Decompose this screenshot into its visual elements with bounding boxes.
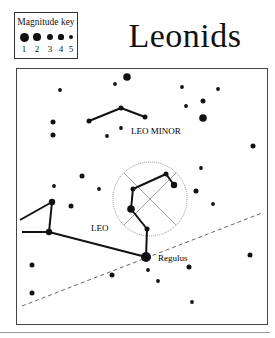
star [51,133,56,138]
star [216,87,220,91]
star [49,199,55,205]
star [211,202,215,206]
star [199,114,207,122]
label-regulus: Regulus [158,253,188,263]
star [171,182,177,188]
star [201,99,206,104]
star [146,268,150,272]
star [194,189,199,194]
star [69,204,74,209]
star [248,253,253,258]
star [131,187,136,192]
star [87,119,92,124]
star [113,82,117,86]
stars [30,73,256,304]
star [127,205,135,213]
star [30,291,35,296]
star [46,229,52,235]
star [187,265,192,270]
star [58,88,62,92]
star [184,104,188,108]
star [119,126,123,130]
star [110,273,115,278]
radiant-circle [113,162,187,236]
star [97,187,101,191]
label-leo: LEO [91,223,109,233]
map-frame [17,69,268,325]
star [190,300,194,304]
star [119,106,124,111]
star [180,85,184,89]
star [52,184,56,188]
star-map: LEO MINOR LEO Regulus [0,0,275,338]
label-leo-minor: LEO MINOR [131,126,181,136]
star [251,144,256,149]
bottom-rule [0,332,270,333]
star [30,263,35,268]
star [164,172,169,177]
star [80,174,85,179]
star [199,166,203,170]
star [156,279,160,283]
star [145,227,150,232]
star [143,115,148,120]
star [141,252,151,262]
star [105,134,109,138]
star [51,120,56,125]
star [123,73,131,81]
